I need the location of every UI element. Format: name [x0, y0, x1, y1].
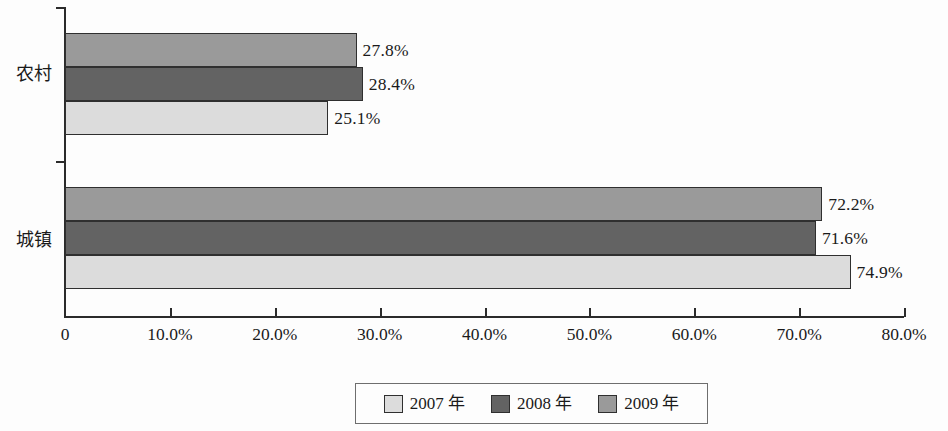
x-axis-tick-label: 40.0%: [462, 326, 507, 344]
x-axis-tick-label: 60.0%: [672, 326, 717, 344]
bar: [65, 67, 363, 101]
x-axis-tick-label: 20.0%: [252, 326, 297, 344]
legend-label: 2008 年: [517, 395, 572, 412]
legend: 2007 年 2008 年 2009 年: [355, 383, 708, 424]
legend-swatch-2007-icon: [384, 395, 403, 413]
x-axis-tick: [275, 308, 277, 317]
x-axis-tick: [485, 308, 487, 317]
category-label-urban: 城镇: [0, 231, 52, 249]
bar: [65, 255, 851, 289]
bar-value-label: 28.4%: [369, 76, 415, 94]
y-axis-tick: [56, 7, 65, 9]
bar-value-label: 72.2%: [828, 196, 874, 214]
bar: [65, 101, 328, 135]
legend-label: 2007 年: [410, 395, 465, 412]
x-axis-tick: [799, 308, 801, 317]
x-axis-tick: [589, 308, 591, 317]
x-axis-tick: [904, 308, 906, 317]
x-axis-tick: [380, 308, 382, 317]
x-axis-tick-label: 10.0%: [147, 326, 192, 344]
legend-swatch-2008-icon: [491, 395, 510, 413]
legend-item[interactable]: 2008 年: [491, 395, 572, 413]
bar-value-label: 71.6%: [822, 230, 868, 248]
category-label-rural: 农村: [0, 65, 52, 83]
bar-value-label: 25.1%: [334, 110, 380, 128]
x-axis-tick-label: 80.0%: [881, 326, 926, 344]
y-axis-tick: [56, 161, 65, 163]
legend-item[interactable]: 2009 年: [598, 395, 679, 413]
x-axis-tick-label: 70.0%: [777, 326, 822, 344]
plot-area: 27.8%28.4%25.1%72.2%71.6%74.9%: [65, 7, 904, 317]
x-axis-tick: [170, 308, 172, 317]
x-axis-tick-label: 50.0%: [567, 326, 612, 344]
x-axis-tick-label: 0: [61, 326, 70, 344]
x-axis-tick: [694, 308, 696, 317]
bar-value-label: 27.8%: [363, 42, 409, 60]
bar: [65, 221, 816, 255]
bar-value-label: 74.9%: [857, 264, 903, 282]
x-axis-tick-label: 30.0%: [357, 326, 402, 344]
bar-chart: 27.8%28.4%25.1%72.2%71.6%74.9% 农村 城镇 010…: [0, 0, 948, 431]
bar: [65, 187, 822, 221]
legend-label: 2009 年: [624, 395, 679, 412]
bar: [65, 33, 357, 67]
legend-swatch-2009-icon: [598, 395, 617, 413]
legend-item[interactable]: 2007 年: [384, 395, 465, 413]
